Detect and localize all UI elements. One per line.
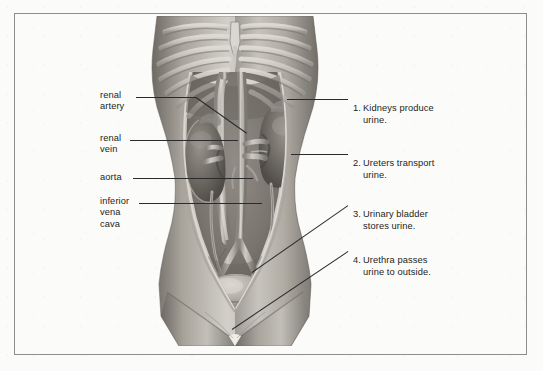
label-urethra-text: Urethra passes urine to outside.: [363, 255, 431, 278]
label-ureters-text: Ureters transport urine.: [363, 158, 434, 181]
label-aorta: aorta: [100, 172, 122, 183]
figure-page: renal artery renal vein aorta inferior v…: [0, 0, 543, 371]
leader-renal-vein: [130, 140, 238, 141]
label-urethra: 4.Urethra passes urine to outside.: [353, 244, 431, 278]
anatomy-illustration: [95, 16, 375, 346]
leader-inferior-vena-cava: [139, 203, 262, 204]
label-kidneys-text: Kidneys produce urine.: [363, 103, 434, 126]
label-urinary-bladder: 3.Urinary bladder stores urine.: [353, 198, 428, 232]
label-urinary-bladder-text: Urinary bladder stores urine.: [363, 209, 428, 232]
label-ureters: 2.Ureters transport urine.: [353, 147, 434, 181]
leader-renal-artery: [136, 97, 196, 98]
leader-aorta: [133, 178, 253, 179]
label-inferior-vena-cava: inferior vena cava: [100, 196, 129, 230]
leader-kidneys: [287, 99, 348, 100]
label-kidneys: 1.Kidneys produce urine.: [353, 92, 434, 126]
label-kidneys-number: 1.: [353, 103, 363, 114]
leader-ureters: [291, 154, 348, 155]
label-ureters-number: 2.: [353, 158, 363, 169]
label-urethra-number: 4.: [353, 255, 363, 266]
label-urinary-bladder-number: 3.: [353, 209, 363, 220]
label-renal-vein: renal vein: [100, 133, 121, 156]
label-renal-artery: renal artery: [100, 90, 124, 113]
